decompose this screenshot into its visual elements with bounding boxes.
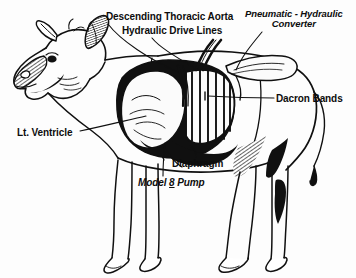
label-converter-line2: Converter [245, 19, 343, 29]
calf-outline [14, 16, 325, 273]
implant-region [117, 40, 297, 167]
hindquarter-shading [233, 136, 288, 178]
label-hydraulic-drive-lines: Hydraulic Drive Lines [122, 26, 222, 37]
label-pneumatic-hydraulic-converter: Pneumatic - Hydraulic Converter [245, 9, 343, 30]
label-descending-thoracic-aorta: Descending Thoracic Aorta [106, 12, 233, 23]
label-dacron-bands: Dacron Bands [276, 94, 343, 105]
artificial-heart-calf-figure: Descending Thoracic Aorta Hydraulic Driv… [0, 0, 356, 278]
label-pump-suffix: Pump [175, 177, 205, 188]
label-pump-prefix: Model [138, 177, 169, 188]
label-model-8-pump: Model 8 Pump [138, 178, 205, 189]
label-lt-ventricle: Lt. Ventricle [17, 128, 72, 139]
label-diaphragm: Diaphragm [172, 159, 223, 170]
calf-line-drawing [0, 0, 356, 278]
